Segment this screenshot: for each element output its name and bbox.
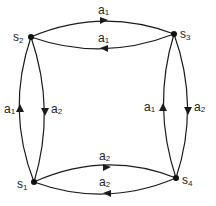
arrow-left-icon — [100, 45, 108, 52]
arrow-down-icon — [184, 107, 192, 115]
edge-label-s2-s1: a2 — [51, 102, 63, 116]
edge-label-s4-s1: a2 — [99, 175, 111, 189]
edge-s4-s3 — [163, 34, 176, 178]
edge-s3-s4 — [174, 34, 188, 178]
node-label-s3: s3 — [180, 27, 191, 42]
node-s4 — [173, 175, 179, 181]
edge-label-s1-s4: a2 — [99, 149, 111, 163]
arrow-left-icon — [103, 190, 111, 197]
node-label-s2: s2 — [13, 30, 24, 45]
edge-label-s2-s3: a1 — [98, 3, 110, 17]
node-s2 — [28, 34, 34, 40]
arrow-right-icon — [100, 17, 108, 24]
arrow-up-icon — [159, 103, 167, 111]
edge-label-s1-s2: a1 — [4, 102, 16, 116]
state-diagram: s2 s3 s1 s4 a1 a1 a1 a2 a1 a2 a2 a2 — [0, 0, 216, 206]
arrow-up-icon — [16, 104, 24, 112]
node-s1 — [31, 179, 37, 185]
edge-label-s3-s4: a2 — [194, 100, 206, 114]
node-label-s1: s1 — [17, 177, 28, 192]
node-label-s4: s4 — [182, 173, 193, 188]
edge-label-s3-s2: a1 — [98, 31, 110, 45]
arrow-down-icon — [41, 108, 49, 116]
node-s3 — [171, 31, 177, 37]
edge-label-s4-s3: a1 — [144, 100, 156, 114]
